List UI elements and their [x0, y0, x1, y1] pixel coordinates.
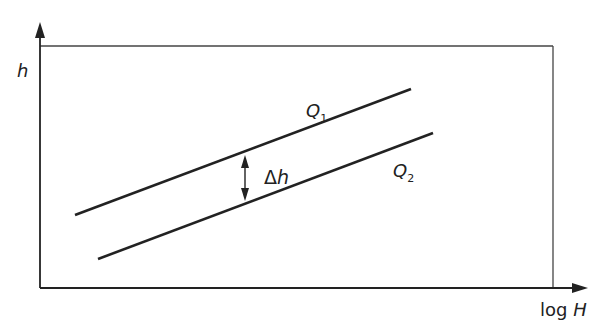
label-delta-h: Δh	[264, 166, 289, 188]
label-q1-subscript: 1	[320, 112, 327, 125]
label-q1: Q1	[306, 100, 327, 125]
y-axis-label: h	[17, 60, 28, 81]
label-q2-name: Q	[393, 160, 407, 181]
delta-symbol: Δ	[264, 166, 277, 188]
line-q1	[75, 89, 411, 215]
x-axis-label-prefix: log	[540, 299, 573, 320]
x-axis-label-var: H	[573, 299, 587, 320]
line-q2	[98, 133, 433, 259]
diagram-canvas: h log H Q1 Q2 Δh	[0, 0, 616, 334]
label-q2: Q2	[393, 160, 414, 185]
x-axis-arrow-icon	[572, 283, 588, 293]
label-q2-subscript: 2	[407, 172, 414, 185]
y-axis-arrow-icon	[35, 22, 45, 38]
delta-h-arrow-up-icon	[241, 155, 249, 168]
delta-var: h	[277, 166, 289, 188]
x-axis-label: log H	[540, 299, 587, 320]
label-q1-name: Q	[306, 100, 320, 121]
delta-h-arrow-down-icon	[241, 188, 249, 201]
